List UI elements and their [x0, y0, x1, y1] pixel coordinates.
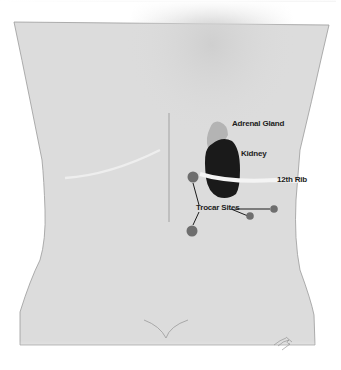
trocar-site-lower-left: [187, 226, 198, 237]
label-kidney: Kidney: [241, 149, 266, 158]
illustration-frame: Adrenal Gland Kidney 12th Rib Trocar Sit…: [0, 0, 341, 370]
torso-illustration: [0, 0, 341, 370]
label-adrenal-gland: Adrenal Gland: [232, 119, 284, 128]
trocar-site-right: [270, 205, 278, 213]
trocar-site-upper-left: [188, 172, 199, 183]
label-trocar-sites: Trocar Sites: [196, 203, 239, 212]
trocar-site-middle: [246, 212, 254, 220]
kidney-shape: [205, 139, 240, 198]
label-12th-rib: 12th Rib: [277, 175, 307, 184]
